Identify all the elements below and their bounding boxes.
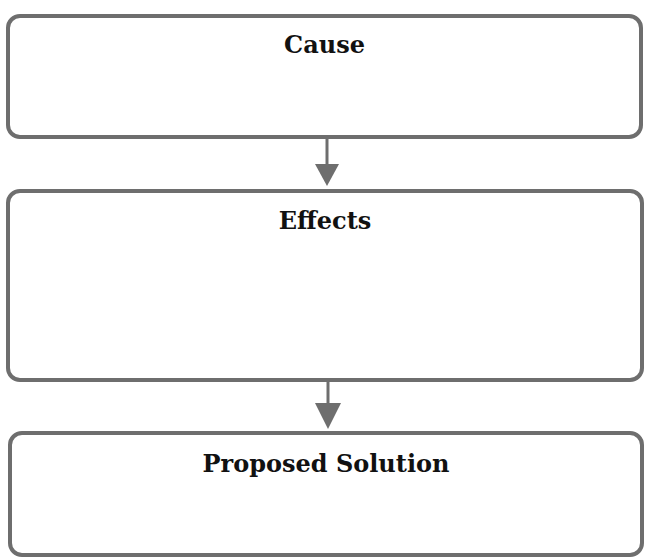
cause-title: Cause — [10, 30, 639, 59]
proposed-solution-box: Proposed Solution — [8, 431, 644, 557]
effects-box: Effects — [6, 189, 644, 382]
arrow-down-icon — [313, 381, 343, 431]
proposed-solution-title: Proposed Solution — [12, 449, 640, 478]
arrow-down-icon — [312, 138, 342, 188]
cause-box: Cause — [6, 14, 643, 139]
effects-title: Effects — [10, 206, 640, 235]
